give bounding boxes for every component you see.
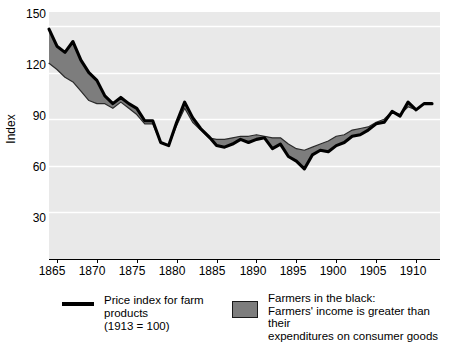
x-tick-1910: 1910 [388, 264, 438, 278]
y-tick-150: 150 [2, 8, 46, 20]
legend-label-price-index: Price index for farm products (1913 = 10… [104, 294, 237, 333]
chart-legend: Price index for farm products (1913 = 10… [0, 292, 451, 329]
x-axis-tick-labels: 1865 1870 1875 1880 1885 1890 1895 1900 … [0, 264, 451, 282]
y-tick-30: 30 [2, 212, 46, 224]
y-axis-title: Index [4, 94, 18, 164]
farm-price-index-area-chart [0, 0, 451, 290]
plot-background [49, 12, 440, 259]
black-line-swatch [62, 302, 94, 306]
chart-plot-region: 150 120 90 60 30 Index 1865 1870 1875 18… [0, 0, 451, 290]
y-tick-120: 120 [2, 59, 46, 71]
gray-area-swatch [232, 301, 258, 318]
legend-label-farmers-in-the-black: Farmers in the black: Farmers' income is… [268, 292, 451, 342]
